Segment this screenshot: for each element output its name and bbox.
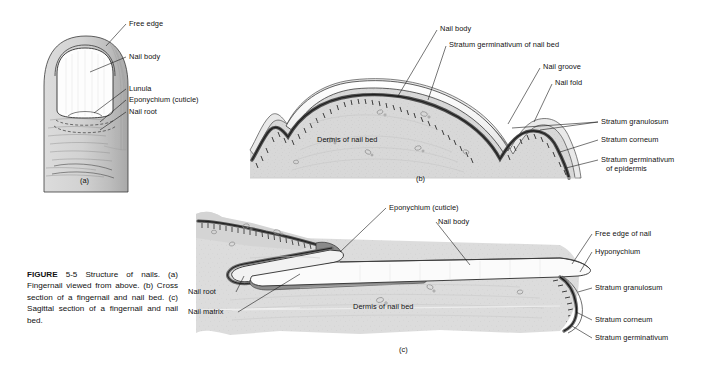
label-c-hyponychium: Hyponychium — [595, 247, 640, 256]
label-b-nail-fold: Nail fold — [555, 78, 582, 87]
label-b-stratum-germ-epidermis-line1: Stratum germinativum — [601, 155, 674, 164]
label-a-eponychium: Eponychium (cuticle) — [129, 95, 199, 104]
panel-c-artwork — [196, 208, 592, 338]
label-c-stratum-corneum: Stratum corneum — [595, 315, 652, 324]
label-a-free-edge: Free edge — [129, 19, 163, 28]
panel-a-artwork — [44, 24, 128, 192]
label-b-stratum-granulosum: Stratum granulosum — [601, 117, 668, 126]
label-c-nail-body: Nail body — [438, 217, 469, 226]
label-c-nail-root: Nail root — [188, 287, 216, 296]
label-b-stratum-corneum: Stratum corneum — [601, 135, 658, 144]
figure-caption-number: 5-5 — [66, 270, 78, 279]
label-b-stratum-germ-nail-bed: Stratum germinativum of nail bed — [449, 40, 559, 49]
figure-caption-label: FIGURE — [27, 270, 58, 279]
label-b-nail-groove: Nail groove — [543, 62, 581, 71]
figure-caption: FIGURE 5-5 Structure of nails. (a) Finge… — [27, 269, 178, 326]
label-c-eponychium: Eponychium (cuticle) — [389, 203, 459, 212]
label-c-stratum-granulosum: Stratum granulosum — [595, 283, 662, 292]
label-b-nail-body: Nail body — [440, 24, 471, 33]
label-a-nail-body: Nail body — [129, 52, 160, 61]
label-c-dermis: Dermis of nail bed — [353, 302, 413, 311]
panel-b-artwork — [250, 30, 598, 178]
label-a-nail-root: Nail root — [129, 107, 157, 116]
panel-b-id: (b) — [416, 174, 425, 183]
label-c-free-edge-of-nail: Free edge of nail — [595, 229, 651, 238]
figure-nail-structure: Free edge Nail body Lunula Eponychium (c… — [0, 0, 709, 369]
label-c-stratum-germinativum: Stratum germinativum — [595, 333, 668, 342]
label-b-dermis: Dermis of nail bed — [317, 135, 377, 144]
panel-a-id: (a) — [80, 176, 89, 185]
panel-c-id: (c) — [399, 345, 408, 354]
label-b-stratum-germ-epidermis-line2: of epidermis — [606, 164, 647, 173]
label-a-lunula: Lunula — [129, 84, 152, 93]
label-c-nail-matrix: Nail matrix — [188, 307, 223, 316]
